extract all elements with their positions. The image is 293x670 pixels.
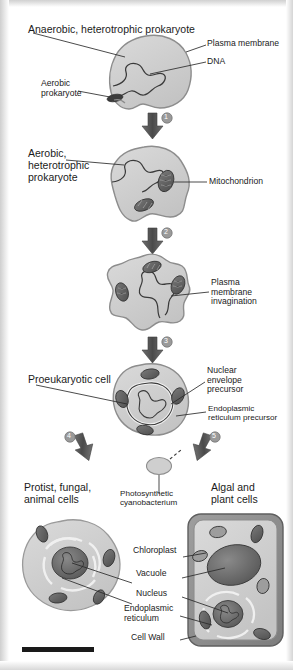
cell-aerobic-prokaryote (111, 146, 189, 221)
callout-mitochondrion: Mitochondrion (209, 177, 263, 187)
branch-right-label: Algal and plant cells (211, 482, 258, 506)
callout-plasma-membrane: Plasma membrane (207, 39, 279, 49)
label-vacuole: Vacuole (136, 569, 166, 579)
label-chloroplast: Chloroplast (133, 546, 176, 556)
cyanobacterium-shape (147, 450, 182, 494)
callout-aerobic-prokaryote: Aerobic prokaryote (41, 79, 82, 98)
cell-plant (188, 514, 283, 646)
diagram-canvas: Anaerobic, heterotrophic prokaryote Plas… (0, 0, 293, 670)
callout-nuclear-envelope-precursor: Nuclear envelope precursor (207, 366, 243, 395)
callout-endoplasmic-reticulum-precursor: Endoplasmic reticulum precursor (208, 404, 277, 422)
step-number-3: 3 (164, 337, 168, 345)
step-number-4: 4 (67, 432, 71, 440)
cell-invaginating (107, 254, 190, 330)
callout-dna: DNA (207, 57, 225, 67)
branch-left-label: Protist, fungal, animal cells (24, 482, 91, 506)
branch-middle-label: Photosynthetic cyanobacterium (120, 489, 177, 507)
cell-animal (23, 520, 120, 611)
callout-plasma-membrane-invagination: Plasma membrane invagination (211, 278, 257, 307)
label-endoplasmic-reticulum: Endoplasmic reticulum (124, 604, 173, 623)
scale-bar (22, 647, 94, 652)
arrow-step-2 (142, 228, 163, 254)
label-nucleus: Nucleus (136, 589, 167, 599)
step-number-2: 2 (164, 228, 168, 236)
arrow-step-1 (142, 113, 163, 139)
cell-anaerobic-prokaryote (106, 35, 191, 109)
stage-4-label: Proeukaryotic cell (28, 374, 111, 386)
label-cell-wall: Cell Wall (131, 633, 165, 643)
arrow-step-3 (142, 337, 163, 363)
stage-2-label: Aerobic, heterotrophic prokaryote (28, 148, 89, 183)
step-number-1: 1 (164, 113, 168, 121)
step-number-5: 5 (212, 432, 216, 440)
stage-1-label: Anaerobic, heterotrophic prokaryote (28, 24, 195, 36)
